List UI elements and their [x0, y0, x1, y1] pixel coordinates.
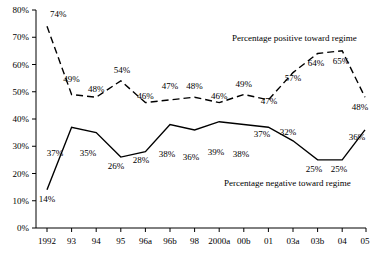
- data-label: 25%: [331, 164, 348, 174]
- y-tick-label: 70%: [13, 32, 30, 42]
- data-label: 48%: [88, 84, 105, 94]
- x-tick-label: 1992: [38, 236, 56, 246]
- data-label: 37%: [47, 148, 64, 158]
- y-tick-label: 40%: [13, 114, 30, 124]
- data-label: 39%: [208, 147, 225, 157]
- y-tick-label: 50%: [13, 87, 30, 97]
- annotation-negative-label: Percentage negative toward regime: [224, 178, 351, 188]
- data-label: 36%: [349, 132, 366, 142]
- line-chart: 0% 10% 20% 30% 40% 50% 60% 70% 80%: [0, 0, 374, 267]
- x-tick-label: 03a: [287, 236, 300, 246]
- y-axis-ticks: [32, 10, 36, 228]
- data-label: 32%: [280, 127, 297, 137]
- data-label: 48%: [352, 102, 369, 112]
- data-label: 37%: [254, 129, 271, 139]
- data-label: 26%: [108, 161, 125, 171]
- y-tick-label: 30%: [13, 141, 30, 151]
- y-tick-label: 20%: [13, 169, 30, 179]
- data-labels-negative: 14% 37% 35% 26% 28% 38% 36% 39% 38% 37% …: [39, 127, 366, 204]
- data-label: 64%: [308, 58, 325, 68]
- x-tick-label: 96a: [139, 236, 152, 246]
- x-axis-tick-labels: 1992 93 94 95 96a 96b 98 2000a 00b 01 03…: [38, 236, 370, 246]
- x-tick-label: 03b: [311, 236, 325, 246]
- x-tick-label: 04: [338, 236, 348, 246]
- data-label: 35%: [80, 148, 97, 158]
- y-axis-tick-labels: 0% 10% 20% 30% 40% 50% 60% 70% 80%: [13, 5, 30, 233]
- data-labels-positive: 74% 49% 48% 54% 46% 47% 48% 46% 49% 47% …: [50, 9, 369, 112]
- y-tick-label: 80%: [13, 5, 30, 15]
- x-tick-label: 96b: [163, 236, 177, 246]
- data-label: 49%: [236, 79, 253, 89]
- data-label: 54%: [114, 65, 131, 75]
- chart-container: 0% 10% 20% 30% 40% 50% 60% 70% 80%: [0, 0, 374, 267]
- x-tick-label: 05: [361, 236, 371, 246]
- y-tick-label: 10%: [13, 196, 30, 206]
- data-label: 46%: [137, 91, 154, 101]
- x-tick-label: 01: [264, 236, 273, 246]
- data-label: 65%: [333, 56, 350, 66]
- x-tick-label: 2000a: [208, 236, 230, 246]
- data-label: 25%: [306, 164, 323, 174]
- data-label: 57%: [285, 73, 302, 83]
- x-tick-label: 93: [67, 236, 77, 246]
- data-label: 49%: [63, 74, 80, 84]
- y-tick-label: 60%: [13, 60, 30, 70]
- data-label: 47%: [162, 81, 179, 91]
- annotation-positive-label: Percentage positive toward regime: [232, 33, 357, 43]
- x-tick-label: 94: [92, 236, 102, 246]
- x-tick-label: 95: [116, 236, 126, 246]
- data-label: 74%: [50, 9, 67, 19]
- data-label: 47%: [261, 96, 278, 106]
- x-tick-label: 98: [190, 236, 200, 246]
- data-label: 38%: [233, 149, 250, 159]
- x-tick-label: 00b: [237, 236, 251, 246]
- y-tick-label: 0%: [17, 223, 30, 233]
- x-axis-ticks: [47, 228, 366, 232]
- data-label: 14%: [39, 194, 56, 204]
- data-label: 48%: [186, 81, 203, 91]
- data-label: 36%: [183, 152, 200, 162]
- data-label: 46%: [211, 91, 228, 101]
- data-label: 28%: [133, 155, 150, 165]
- data-label: 38%: [159, 149, 176, 159]
